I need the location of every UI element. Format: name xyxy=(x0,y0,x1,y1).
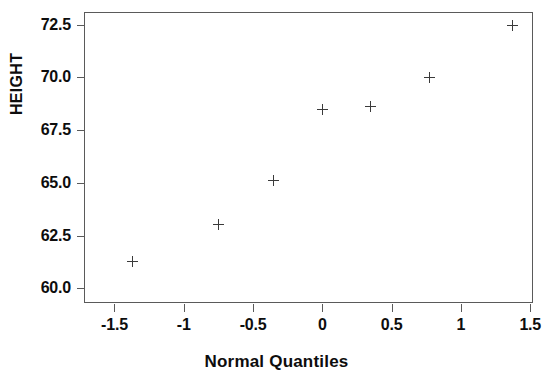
x-axis-tick xyxy=(322,304,323,312)
y-axis-tick-label: 60.0 xyxy=(41,279,71,297)
y-axis-tick xyxy=(77,183,84,184)
x-axis-tick-label: 0 xyxy=(318,316,327,334)
y-axis-tick xyxy=(77,25,84,26)
chart-page: HEIGHT Normal Quantiles 60.062.565.067.5… xyxy=(0,0,553,389)
chart-title-cropped xyxy=(0,0,553,11)
x-axis-tick xyxy=(461,304,462,312)
y-axis-tick xyxy=(77,236,84,237)
y-axis-tick-label: 67.5 xyxy=(41,121,71,139)
x-axis-tick-label: 0.5 xyxy=(381,316,403,334)
y-axis-tick xyxy=(77,288,84,289)
y-axis-title: HEIGHT xyxy=(8,53,26,115)
x-axis-tick xyxy=(184,304,185,312)
y-axis-tick-label: 70.0 xyxy=(41,68,71,86)
y-axis-tick-label: 62.5 xyxy=(41,227,71,245)
x-axis-tick xyxy=(253,304,254,312)
y-axis-tick-label: 65.0 xyxy=(41,174,71,192)
y-axis-tick xyxy=(77,77,84,78)
y-axis-tick xyxy=(77,130,84,131)
x-axis-tick xyxy=(530,304,531,312)
x-axis-tick-label: 1 xyxy=(457,316,466,334)
x-axis-tick-label: -0.5 xyxy=(240,316,267,334)
x-axis-title: Normal Quantiles xyxy=(0,352,553,372)
x-axis-tick xyxy=(114,304,115,312)
x-axis-tick-label: -1.5 xyxy=(101,316,128,334)
x-axis-tick-label: 1.5 xyxy=(519,316,541,334)
plot-area-frame xyxy=(84,12,533,303)
x-axis-tick xyxy=(392,304,393,312)
x-axis-tick-label: -1 xyxy=(177,316,191,334)
y-axis-tick-label: 72.5 xyxy=(41,16,71,34)
